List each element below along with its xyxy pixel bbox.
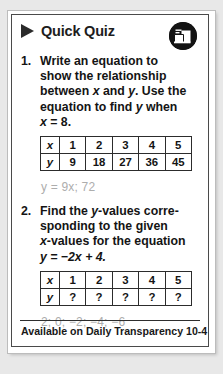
table1-x-cell-1: 2	[86, 137, 112, 154]
table2-x-cell-4: 5	[165, 271, 191, 288]
table-row: x 1 2 3 4 5	[41, 271, 192, 288]
q1-line2: show the relationship	[40, 69, 166, 83]
question-1: 1. Write an equation to show the relatio…	[21, 54, 199, 130]
q1-line4-b: when	[142, 100, 177, 114]
table1-row-label-y: y	[41, 154, 60, 171]
quick-quiz-card: Quick Quiz	[11, 14, 209, 347]
q1-line3-a: between	[40, 84, 93, 98]
q2-var-x: x	[40, 234, 47, 248]
card-content: Quick Quiz	[12, 15, 208, 346]
table1-y-cell-2: 27	[112, 154, 138, 171]
page-background: Quick Quiz	[0, 0, 223, 374]
table2-row-label-y: y	[41, 288, 60, 305]
q1-line4-a: equation to find	[40, 100, 136, 114]
q2-equation: y = −2x + 4.	[40, 250, 106, 264]
table2-x-cell-2: 3	[112, 271, 138, 288]
q1-var-x2: x	[40, 115, 47, 129]
question-1-number: 1.	[21, 54, 40, 69]
folder-document-icon[interactable]	[169, 22, 197, 50]
question-1-answer: y = 9x; 72	[41, 180, 199, 194]
table2-y-cell-0: ?	[60, 288, 86, 305]
q2-line1-b: -values corre-	[98, 204, 179, 218]
table-row: y 9 18 27 36 45	[41, 154, 192, 171]
table2-y-cell-3: ?	[139, 288, 165, 305]
q1-line1: Write an equation to	[40, 54, 158, 68]
question-2-number: 2.	[21, 204, 40, 219]
table1-y-cell-3: 36	[139, 154, 165, 171]
table-row: y ? ? ? ? ?	[41, 288, 192, 305]
table1-y-cell-4: 45	[165, 154, 191, 171]
q2-line3-b: -values for the equation	[47, 234, 186, 248]
page-title: Quick Quiz	[41, 24, 115, 39]
footer-divider	[20, 320, 200, 321]
q1-line5-b: = 8.	[47, 115, 71, 129]
question-2-text: Find the y-values corre- sponding to the…	[40, 204, 199, 265]
table2-y-cell-1: ?	[86, 288, 112, 305]
q2-line1-a: Find the	[40, 204, 91, 218]
table2-row-label-x: x	[41, 271, 60, 288]
table1-x-cell-3: 4	[139, 137, 165, 154]
table1-x-cell-4: 5	[165, 137, 191, 154]
table1-y-cell-0: 9	[60, 154, 86, 171]
values-table-2: x 1 2 3 4 5 y ? ? ? ?	[40, 271, 192, 306]
table2-y-cell-4: ?	[165, 288, 191, 305]
q1-line3-b: and	[99, 84, 128, 98]
play-triangle-icon	[21, 24, 34, 38]
table2-x-cell-3: 4	[139, 271, 165, 288]
values-table-1: x 1 2 3 4 5 y 9 18 27 36	[40, 136, 192, 171]
table1-x-cell-2: 3	[112, 137, 138, 154]
table1-y-cell-1: 18	[86, 154, 112, 171]
table2-x-cell-1: 2	[86, 271, 112, 288]
table2-y-cell-2: ?	[112, 288, 138, 305]
table2-x-cell-0: 1	[60, 271, 86, 288]
table1-row-label-x: x	[41, 137, 60, 154]
question-1-text: Write an equation to show the relationsh…	[40, 54, 199, 130]
q1-var-y: y	[128, 84, 135, 98]
table-2-wrapper: x 1 2 3 4 5 y ? ? ? ?	[40, 271, 199, 306]
q2-line2: sponding to the given	[40, 219, 168, 233]
footer-note: Available on Daily Transparency 10-4	[21, 325, 207, 338]
table1-x-cell-0: 1	[60, 137, 86, 154]
table-row: x 1 2 3 4 5	[41, 137, 192, 154]
q1-line3-c: . Use the	[135, 84, 186, 98]
question-2: 2. Find the y-values corre- sponding to …	[21, 204, 199, 265]
card-header: Quick Quiz	[21, 22, 199, 52]
table-1-wrapper: x 1 2 3 4 5 y 9 18 27 36	[40, 136, 199, 171]
